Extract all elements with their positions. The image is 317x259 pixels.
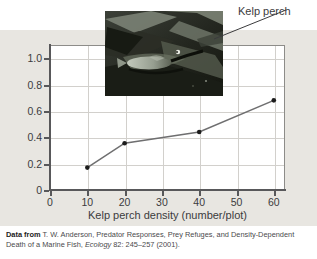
y-axis-tick-labels: 00.20.40.60.81.0 — [0, 0, 42, 259]
caption-prefix: Data from — [6, 230, 41, 239]
figure-caption: Data from T. W. Anderson, Predator Respo… — [6, 230, 312, 249]
y-axis-tick — [44, 85, 49, 87]
x-axis-title: Kelp perch density (number/plot) — [50, 209, 285, 221]
x-axis-tick-label: 10 — [72, 196, 102, 208]
data-point-marker — [272, 98, 277, 103]
x-axis-tick-label: 30 — [147, 196, 177, 208]
y-axis-tick-label: 0.8 — [2, 79, 42, 91]
x-axis-tick — [50, 191, 52, 196]
x-axis-tick — [87, 191, 89, 196]
y-axis-tick — [44, 111, 49, 113]
y-axis-tick — [44, 190, 49, 192]
y-axis-tick-label: 0.6 — [2, 105, 42, 117]
caption-line2-before: Death of a Marine Fish, — [6, 240, 83, 249]
figure-page: 00.20.40.60.81.0 0102030405060 Proportio… — [0, 0, 317, 259]
x-axis-tick-label: 60 — [259, 196, 289, 208]
x-axis-tick-label: 0 — [35, 196, 65, 208]
series-line — [87, 100, 274, 167]
caption-line2-after: 82: 245–257 (2001). — [113, 240, 180, 249]
x-axis-tick — [274, 191, 276, 196]
data-point-marker — [122, 141, 127, 146]
x-axis-tick-label: 50 — [222, 196, 252, 208]
x-axis-tick — [237, 191, 239, 196]
y-axis-tick-label: 0.2 — [2, 158, 42, 170]
x-axis-tick-label: 20 — [110, 196, 140, 208]
data-point-marker — [85, 165, 90, 170]
x-axis-tick-label: 40 — [184, 196, 214, 208]
caption-line1: T. W. Anderson, Predator Responses, Prey… — [42, 230, 294, 239]
y-axis-tick — [44, 58, 49, 60]
y-axis-tick — [44, 137, 49, 139]
y-axis-tick-label: 0 — [2, 184, 42, 196]
x-axis-tick — [162, 191, 164, 196]
kelp-perch-callout-label: Kelp perch — [238, 5, 291, 17]
x-axis-tick — [125, 191, 127, 196]
x-axis-tick — [199, 191, 201, 196]
y-axis-tick — [44, 164, 49, 166]
y-axis-tick-label: 0.4 — [2, 131, 42, 143]
data-point-marker — [197, 130, 202, 135]
caption-journal: Ecology — [85, 240, 111, 249]
y-axis-tick-label: 1.0 — [2, 52, 42, 64]
